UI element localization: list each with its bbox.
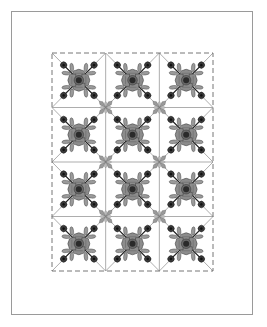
floral-block xyxy=(163,112,209,158)
floral-block xyxy=(56,166,102,212)
flower-center-icon xyxy=(76,132,82,138)
star-connector-icon xyxy=(98,154,114,170)
floral-block xyxy=(56,112,102,158)
quilt-layout-diagram xyxy=(0,0,267,327)
flower-center-icon xyxy=(76,77,82,83)
flower-center-icon xyxy=(183,241,189,247)
flower-center-icon xyxy=(183,186,189,192)
floral-block xyxy=(109,221,155,267)
floral-block xyxy=(163,221,209,267)
star-connector-icon xyxy=(98,209,114,225)
floral-block xyxy=(109,166,155,212)
floral-block xyxy=(163,57,209,103)
flower-center-icon xyxy=(130,132,136,138)
flower-center-icon xyxy=(130,77,136,83)
floral-block xyxy=(56,221,102,267)
flower-center-icon xyxy=(130,241,136,247)
floral-block xyxy=(163,166,209,212)
flower-center-icon xyxy=(76,186,82,192)
floral-block xyxy=(109,57,155,103)
floral-block xyxy=(109,112,155,158)
floral-block xyxy=(56,57,102,103)
star-connector-icon xyxy=(152,209,168,225)
star-connector-icon xyxy=(152,100,168,116)
flower-center-icon xyxy=(183,132,189,138)
flower-center-icon xyxy=(76,241,82,247)
star-connector-icon xyxy=(98,100,114,116)
flower-center-icon xyxy=(130,186,136,192)
flower-center-icon xyxy=(183,77,189,83)
star-connector-icon xyxy=(152,154,168,170)
